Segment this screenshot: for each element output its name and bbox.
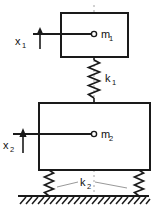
ground-hatching bbox=[20, 197, 150, 204]
mass-2-group: m 2 bbox=[13, 103, 150, 170]
displacement-x2-label: x bbox=[3, 139, 9, 151]
spring-k1-coils bbox=[89, 60, 100, 98]
spring-k1-subscript: 1 bbox=[112, 78, 116, 87]
schematic-canvas: m 1 x 1 k 1 m 2 x 2 bbox=[0, 0, 157, 215]
spring-k2-label: k bbox=[80, 176, 86, 188]
displacement-x1-group: x 1 bbox=[15, 27, 44, 50]
mass-2-subscript: 2 bbox=[109, 134, 113, 143]
spring-k2-leader-left bbox=[57, 182, 78, 187]
displacement-x2-group: x 2 bbox=[3, 128, 27, 154]
ground-group bbox=[18, 196, 150, 204]
spring-k2-right-group bbox=[135, 170, 144, 196]
displacement-x1-subscript: 1 bbox=[22, 41, 26, 50]
spring-k2-label-group: k 2 bbox=[57, 176, 127, 191]
spring-k1-group: k 1 bbox=[89, 57, 117, 103]
mass-2-node bbox=[91, 131, 96, 136]
spring-k1-label: k bbox=[105, 72, 111, 84]
mass-1-node bbox=[91, 31, 96, 36]
mass-1-group: m 1 bbox=[33, 13, 128, 57]
mass-spring-diagram: m 1 x 1 k 1 m 2 x 2 bbox=[0, 0, 157, 215]
spring-k2-subscript: 2 bbox=[87, 182, 91, 191]
spring-k2-left-group bbox=[45, 170, 54, 196]
spring-k2-right-coils bbox=[135, 170, 144, 196]
spring-k2-leader-right bbox=[95, 182, 127, 188]
spring-k2-left-coils bbox=[45, 170, 54, 196]
displacement-x1-arrow-head bbox=[36, 27, 43, 35]
displacement-x2-arrow-head bbox=[19, 128, 26, 137]
displacement-x2-subscript: 2 bbox=[10, 145, 14, 154]
displacement-x1-label: x bbox=[15, 35, 21, 47]
mass-1-subscript: 1 bbox=[109, 34, 113, 43]
